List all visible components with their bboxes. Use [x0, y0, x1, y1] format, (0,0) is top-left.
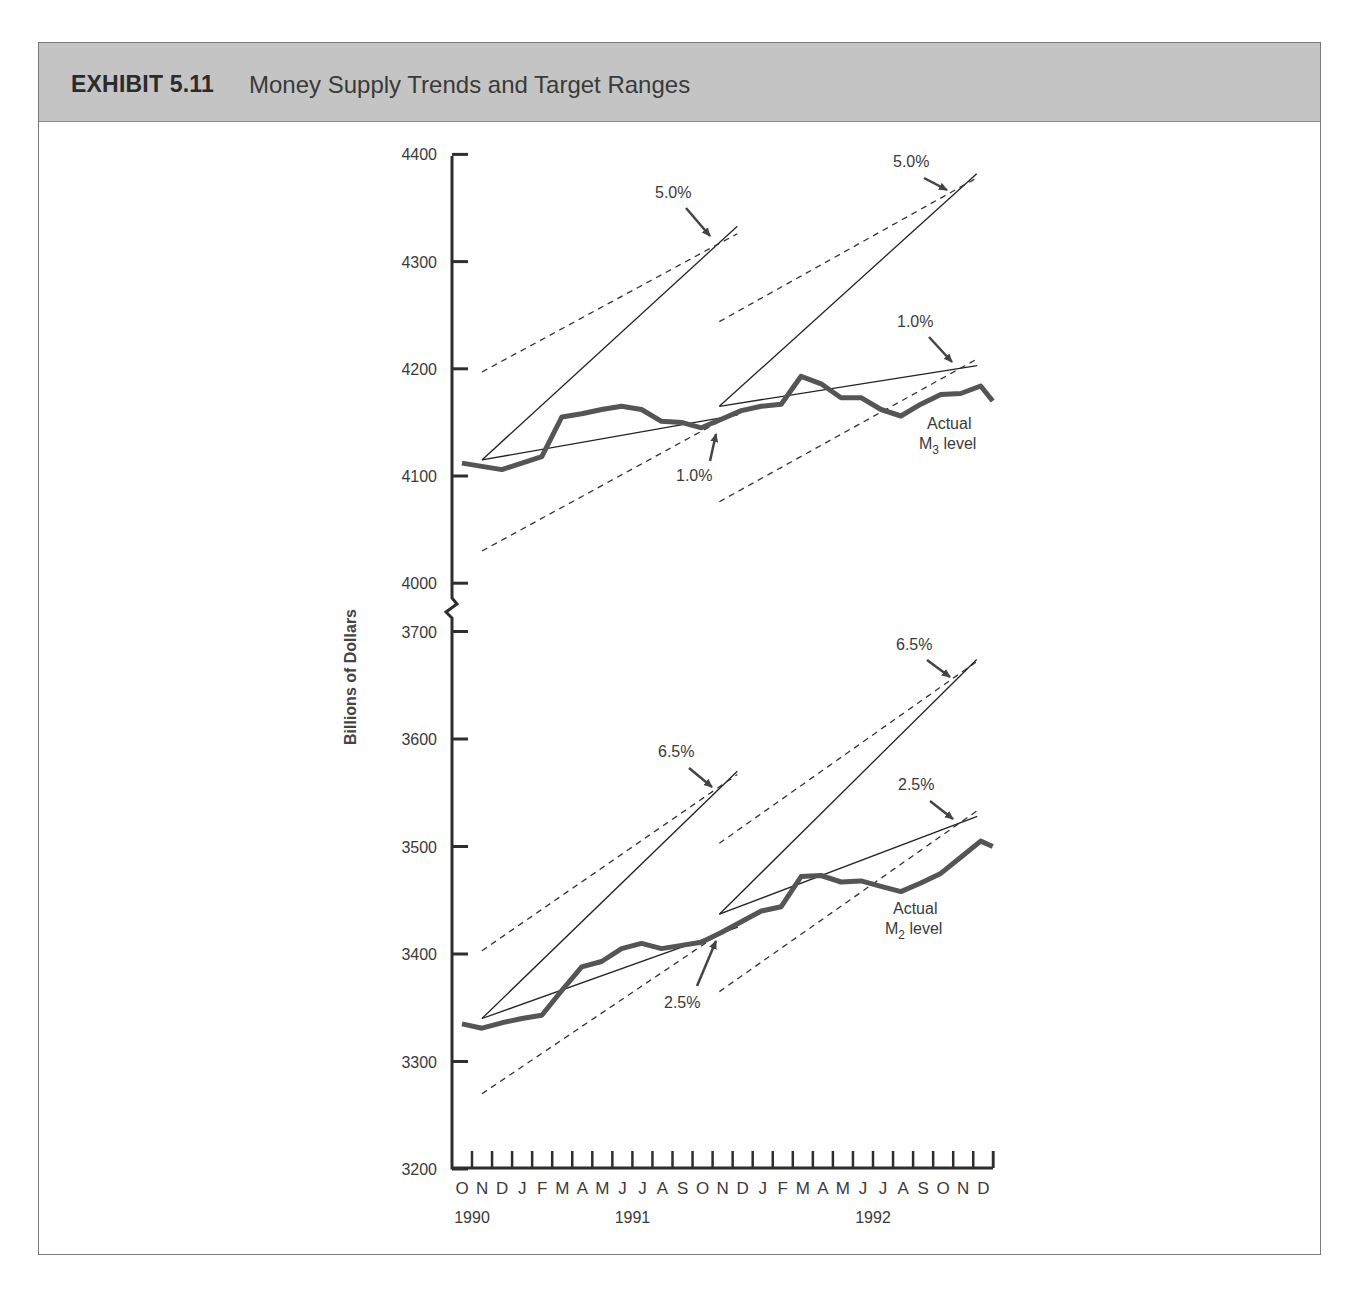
dashed-upper-line: [719, 662, 976, 844]
y-tick-label: 4100: [401, 468, 437, 485]
y-tick-label: 3400: [401, 946, 437, 963]
x-month-label: J: [518, 1179, 527, 1198]
annotation-m3-1991-lower: 1.0%: [676, 467, 712, 484]
actual-m3-line: [462, 376, 993, 469]
x-month-label: J: [759, 1179, 768, 1198]
money-supply-chart: 4000410042004300440032003300340035003600…: [0, 0, 1356, 1295]
m2-level-label: M2 level: [885, 920, 942, 942]
dashed-upper-line: [482, 774, 737, 950]
x-month-label: J: [879, 1179, 888, 1198]
x-month-label: S: [917, 1179, 928, 1198]
x-month-label: D: [496, 1179, 508, 1198]
annotation-m2-1992-lower: 2.5%: [898, 776, 934, 793]
x-month-label: O: [696, 1179, 709, 1198]
annotation-m3-1992-lower: 1.0%: [897, 313, 933, 330]
m2-actual-label: Actual: [893, 900, 937, 917]
x-month-label: M: [796, 1179, 810, 1198]
y-tick-label: 4200: [401, 361, 437, 378]
y-tick-label: 3200: [401, 1161, 437, 1178]
m3-actual-label: Actual: [927, 415, 971, 432]
x-month-label: A: [577, 1179, 589, 1198]
y-tick-label: 3300: [401, 1054, 437, 1071]
x-month-label: N: [717, 1179, 729, 1198]
annotation-m3-1991-upper: 5.0%: [655, 184, 691, 201]
annotation-m2-1991-upper: 6.5%: [658, 743, 694, 760]
x-month-label: O: [937, 1179, 950, 1198]
x-month-label: D: [977, 1179, 989, 1198]
annotations: 5.0% 1.0% 5.0% 1.0% Actual M3 level 6.5%…: [655, 153, 976, 1011]
dashed-lower-line: [719, 811, 976, 992]
y-axis-label: Billions of Dollars: [342, 609, 359, 745]
x-year-label: 1992: [855, 1209, 891, 1226]
y-tick-label: 3700: [401, 624, 437, 641]
target-range-lines: [482, 174, 977, 1094]
x-month-label: M: [555, 1179, 569, 1198]
y-tick-label: 4000: [401, 575, 437, 592]
dashed-upper-line: [719, 178, 976, 322]
annotation-m3-1992-upper: 5.0%: [893, 153, 929, 170]
x-month-label: N: [957, 1179, 969, 1198]
x-month-label: A: [657, 1179, 669, 1198]
x-month-label: J: [859, 1179, 868, 1198]
x-month-label: M: [836, 1179, 850, 1198]
x-month-label: S: [677, 1179, 688, 1198]
x-month-label: J: [618, 1179, 627, 1198]
x-month-label: O: [455, 1179, 468, 1198]
x-month-label: M: [595, 1179, 609, 1198]
x-month-label: D: [737, 1179, 749, 1198]
y-tick-label: 4400: [401, 146, 437, 163]
dashed-upper-line: [482, 234, 737, 372]
axes: 4000410042004300440032003300340035003600…: [401, 146, 993, 1226]
x-year-label: 1991: [615, 1209, 651, 1226]
x-month-label: A: [817, 1179, 829, 1198]
target-lower-line: [719, 816, 977, 914]
x-month-label: F: [778, 1179, 788, 1198]
y-tick-label: 3500: [401, 839, 437, 856]
x-year-label: 1990: [454, 1209, 490, 1226]
m3-level-label: M3 level: [919, 435, 976, 457]
target-lower-line: [482, 415, 738, 460]
x-month-label: N: [476, 1179, 488, 1198]
y-tick-label: 4300: [401, 254, 437, 271]
x-month-label: J: [638, 1179, 647, 1198]
annotation-m2-1991-lower: 2.5%: [664, 994, 700, 1011]
annotation-m2-1992-upper: 6.5%: [896, 636, 932, 653]
y-tick-label: 3600: [401, 731, 437, 748]
x-month-label: A: [897, 1179, 909, 1198]
x-month-label: F: [537, 1179, 547, 1198]
